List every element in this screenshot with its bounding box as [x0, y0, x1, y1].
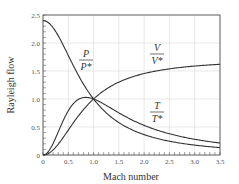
x-tick-label: 2.0 [140, 158, 149, 166]
v-label-numerator: V [154, 42, 162, 53]
y-tick-label: 1.0 [31, 96, 40, 104]
x-tick-labels: 00.51.01.52.02.53.03.5 [41, 158, 225, 166]
label-t-over-tstar: T T* [150, 100, 164, 124]
y-tick-label: 1.5 [31, 68, 40, 76]
y-tick-labels: 00.51.01.52.02.5 [31, 12, 40, 160]
y-tick-label: 0 [37, 152, 41, 160]
label-p-over-pstar: P P* [79, 48, 93, 72]
t-label-denominator: T* [152, 113, 163, 124]
x-axis-label: Mach number [103, 171, 159, 182]
x-tick-label: 3.0 [190, 158, 199, 166]
t-over-tstar-curve [43, 97, 220, 155]
y-tick-label: 0.5 [31, 124, 40, 132]
x-tick-label: 0.5 [64, 158, 73, 166]
x-tick-label: 0 [41, 158, 45, 166]
y-tick-label: 2.0 [31, 40, 40, 48]
x-tick-label: 2.5 [165, 158, 174, 166]
y-tick-label: 2.5 [31, 12, 40, 20]
label-v-over-vstar: V V* [150, 42, 164, 66]
minor-ticks [43, 15, 220, 155]
x-tick-label: 1.5 [114, 158, 123, 166]
t-label-numerator: T [154, 100, 161, 111]
rayleigh-flow-chart: 00.51.01.52.02.53.03.5 00.51.01.52.02.5 … [0, 0, 239, 184]
v-label-denominator: V* [151, 55, 162, 66]
p-label-denominator: P* [79, 61, 91, 72]
x-tick-label: 1.0 [89, 158, 98, 166]
p-label-numerator: P [82, 48, 89, 59]
grid [43, 15, 220, 155]
plot-frame [43, 15, 220, 155]
y-axis-label: Rayleigh flow [5, 56, 16, 114]
x-tick-label: 3.5 [216, 158, 225, 166]
curves [43, 21, 220, 155]
